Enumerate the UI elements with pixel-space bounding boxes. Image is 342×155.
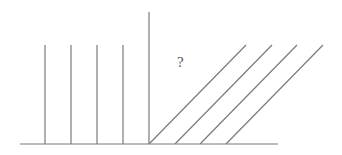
line-diagram [0, 0, 342, 155]
diagonal-line [226, 45, 323, 144]
diagonal-line [200, 45, 297, 144]
diagram-canvas: ? [0, 0, 342, 155]
diagonal-line [149, 45, 246, 144]
question-mark-label: ? [177, 54, 184, 71]
diagonal-line [175, 45, 272, 144]
